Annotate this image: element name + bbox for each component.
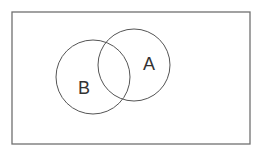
venn-diagram: A B [0, 0, 265, 150]
set-a-label: A [143, 54, 155, 74]
universe-rectangle [12, 12, 250, 144]
set-b-label: B [78, 78, 90, 98]
